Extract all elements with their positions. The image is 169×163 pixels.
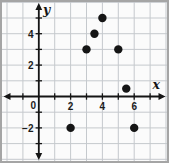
scatter-plot-figure: 24642−20 x y [0,0,169,163]
x-tick-label: 2 [68,101,74,112]
data-point [114,45,122,53]
x-axis-label: x [152,77,161,92]
y-axis-label: y [42,2,51,17]
scatter-plot-canvas: 24642−20 x y [0,0,169,163]
data-point [90,30,98,38]
data-point [130,124,138,132]
data-point [122,84,130,92]
y-tick-label: 4 [28,29,34,40]
data-point [82,45,90,53]
x-tick-label: 6 [131,101,137,112]
plot-background [0,0,169,163]
y-tick-label: 2 [28,60,34,71]
data-point [98,14,106,22]
data-point [66,124,74,132]
x-tick-label: 4 [100,101,106,112]
origin-label: 0 [30,100,36,111]
y-tick-label: −2 [22,123,34,134]
